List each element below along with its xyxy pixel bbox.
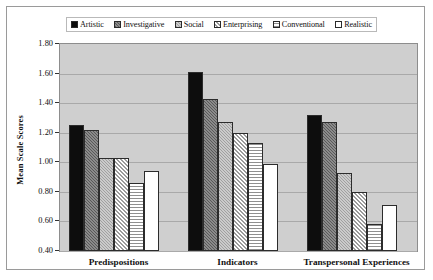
bar (99, 158, 114, 251)
bar (218, 122, 233, 251)
y-axis-title: Mean Scale Scores (16, 115, 25, 185)
y-tick-label: 1.60 (38, 68, 53, 77)
legend-label: Realistic (344, 20, 372, 29)
x-tick-label: Transpersonal Experiences (303, 257, 409, 267)
bar (322, 122, 337, 251)
x-tick-label: Predispositions (89, 257, 149, 267)
bar (263, 164, 278, 251)
legend-swatch-icon (273, 21, 280, 28)
plot-area (59, 43, 418, 252)
x-axis: PredispositionsIndicatorsTranspersonal E… (59, 257, 418, 273)
bar (307, 115, 322, 251)
y-axis: Mean Scale Scores 1.801.601.401.201.000.… (7, 37, 59, 252)
legend-item-enterprising: Enterprising (214, 20, 262, 29)
legend-swatch-icon (71, 21, 78, 28)
bar-group-2 (188, 72, 278, 251)
legend-swatch-icon (175, 21, 182, 28)
bar (248, 143, 263, 251)
legend-item-realistic: Realistic (335, 20, 372, 29)
bar (188, 72, 203, 251)
y-tick-label: 1.40 (38, 98, 53, 107)
y-tick-label: 0.80 (38, 186, 53, 195)
legend-swatch-icon (114, 21, 121, 28)
bar (203, 99, 218, 251)
legend-label: Enterprising (223, 20, 262, 29)
y-tick-label: 0.40 (38, 246, 53, 255)
legend-item-conventional: Conventional (273, 20, 325, 29)
x-tick-label: Indicators (217, 257, 257, 267)
legend-item-social: Social (175, 20, 204, 29)
bar (382, 205, 397, 251)
bar (367, 224, 382, 251)
bar-group-3 (307, 115, 397, 251)
legend-item-investigative: Investigative (114, 20, 164, 29)
bar (144, 171, 159, 251)
legend-label: Conventional (282, 20, 325, 29)
legend-swatch-icon (335, 21, 342, 28)
bar (352, 192, 367, 251)
chart-frame: ArtisticInvestigativeSocialEnterprisingC… (6, 6, 425, 270)
bar-group-1 (69, 125, 159, 251)
bar (114, 158, 129, 251)
legend-label: Investigative (123, 20, 164, 29)
y-tick-label: 1.00 (38, 157, 53, 166)
gridline (60, 251, 417, 252)
bar (84, 130, 99, 251)
chart-legend: ArtisticInvestigativeSocialEnterprisingC… (66, 17, 377, 32)
bar (129, 183, 144, 251)
y-tick-label: 1.80 (38, 39, 53, 48)
legend-label: Social (184, 20, 204, 29)
legend-label: Artistic (80, 20, 104, 29)
legend-swatch-icon (214, 21, 221, 28)
bar (233, 133, 248, 251)
legend-item-artistic: Artistic (71, 20, 104, 29)
y-tick-label: 1.20 (38, 127, 53, 136)
y-tick-label: 0.60 (38, 216, 53, 225)
bar (337, 173, 352, 251)
bar (69, 125, 84, 251)
